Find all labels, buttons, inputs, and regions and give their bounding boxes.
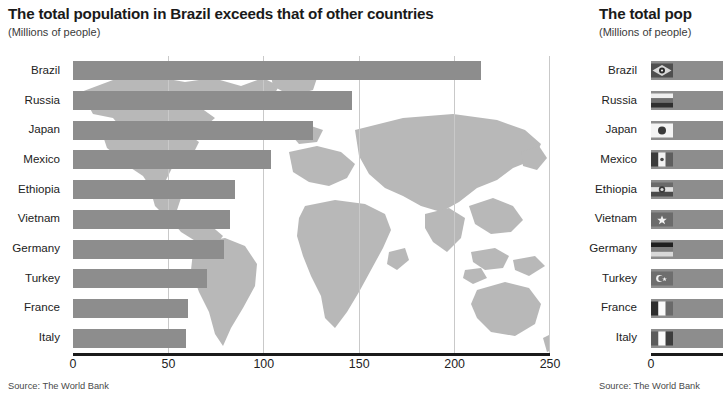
right-y-axis-labels: BrazilRussiaJapanMexicoEthiopiaVietnamGe… [585,56,645,353]
flag-russia-icon [651,91,673,110]
bar-brazil [73,61,481,80]
bar-france [651,299,723,318]
left-chart-panel: The total population in Brazil exceeds t… [0,0,575,404]
bar-vietnam [73,210,230,229]
y-label-mexico: Mexico [23,152,60,165]
flag-ethiopia-icon [651,180,673,199]
flag-france-icon [651,299,673,318]
y-label-ethiopia: Ethiopia [18,182,60,195]
flag-brazil-icon [651,61,673,80]
bar-france [73,299,188,318]
y-label-brazil: Brazil [608,63,637,76]
y-label-germany: Germany [12,241,60,254]
left-chart-subtitle: (Millions of people) [8,26,100,38]
x-tick-50: 50 [161,357,175,371]
y-label-russia: Russia [25,93,60,106]
bar-italy [651,329,723,348]
y-label-france: France [24,300,60,313]
right-x-axis-line [651,353,723,356]
y-label-turkey: Turkey [602,271,637,284]
left-plot-area [73,56,550,353]
right-chart-source: Source: The World Bank [599,381,700,391]
y-label-russia: Russia [602,93,637,106]
x-tick-250: 250 [540,357,561,371]
bar-ethiopia [73,180,235,199]
bar-russia [651,91,723,110]
y-label-brazil: Brazil [31,63,60,76]
gridline-150 [359,56,360,353]
right-chart-title: The total pop [599,5,692,22]
y-label-japan: Japan [605,122,637,135]
flag-vietnam-icon [651,210,673,229]
flag-germany-icon [651,240,673,259]
y-label-japan: Japan [28,122,60,135]
bar-japan [73,121,313,140]
bar-mexico [73,150,271,169]
left-y-axis-labels: BrazilRussiaJapanMexicoEthiopiaVietnamGe… [0,56,68,353]
x-tick-100: 100 [253,357,274,371]
gridline-200 [454,56,455,353]
right-chart-subtitle: (Millions of people) [599,26,691,38]
bar-turkey [73,269,207,288]
left-x-axis-line [73,353,550,356]
y-label-italy: Italy [616,330,637,343]
y-label-vietnam: Vietnam [18,211,60,224]
left-chart-title: The total population in Brazil exceeds t… [8,5,434,22]
bar-germany [73,240,224,259]
x-tick-0: 0 [70,357,77,371]
panel-divider [575,0,585,404]
x-tick-150: 150 [349,357,370,371]
bar-ethiopia [651,180,723,199]
flag-italy-icon [651,329,673,348]
bar-brazil [651,61,723,80]
y-label-italy: Italy [39,330,60,343]
right-x-tick-0: 0 [648,357,655,371]
y-label-turkey: Turkey [25,271,60,284]
y-label-vietnam: Vietnam [595,211,637,224]
bar-vietnam [651,210,723,229]
gridline-250 [549,56,550,353]
right-chart-panel: The total pop (Millions of people) Brazi… [585,0,723,404]
bar-turkey [651,269,723,288]
bar-germany [651,240,723,259]
y-label-mexico: Mexico [600,152,637,165]
bar-italy [73,329,186,348]
y-label-ethiopia: Ethiopia [595,182,637,195]
left-chart-source: Source: The World Bank [8,381,109,391]
flag-japan-icon [651,121,673,140]
flag-turkey-icon [651,269,673,288]
bar-russia [73,91,352,110]
y-label-france: France [601,300,637,313]
flag-mexico-icon [651,150,673,169]
right-plot-area [651,56,723,353]
x-tick-200: 200 [444,357,465,371]
y-label-germany: Germany [589,241,637,254]
bar-japan [651,121,723,140]
bar-mexico [651,150,723,169]
